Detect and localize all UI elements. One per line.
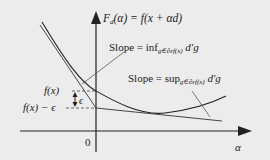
function-title-rhs: (α) = f(x + αd) (114, 12, 182, 24)
slope-inf-label: Slope = infg∈∂εf(x) d′g (109, 42, 199, 55)
fx-minus-eps-label: f(x) − ϵ (23, 102, 56, 113)
slope-sup-prefix: Slope = sup (128, 72, 180, 84)
y-axis-arrow-icon (91, 11, 101, 24)
epsilon-arrow-down-icon (73, 102, 78, 107)
slope-inf-sub: g∈∂εf(x) (158, 47, 183, 55)
origin-label: 0 (85, 137, 91, 148)
x-axis-label: α (235, 142, 241, 153)
slope-sup-suffix: d′g (205, 72, 221, 84)
epsilon-label: ϵ (79, 96, 83, 106)
slope-sup-sub: g∈∂εf(x) (180, 78, 205, 86)
slope-sup-label: Slope = supg∈∂εf(x) d′g (128, 73, 221, 86)
tangent-line-sup (96, 108, 222, 121)
x-axis-arrow-icon (238, 126, 252, 136)
epsilon-arrow-up-icon (73, 92, 78, 97)
fx-label: f(x) (44, 85, 59, 96)
inf-label-pointer (82, 52, 124, 84)
slope-inf-suffix: d′g (183, 41, 199, 53)
function-title-label: Fd(α) = f(x + αd) (103, 13, 182, 26)
function-title-lhs: F (103, 12, 110, 24)
slope-inf-prefix: Slope = inf (109, 41, 158, 53)
